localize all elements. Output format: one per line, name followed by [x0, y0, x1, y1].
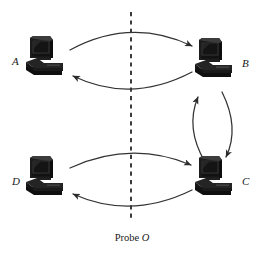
arrow-b-to-a: [73, 72, 192, 89]
node-c-computer: [195, 156, 232, 195]
node-b-computer: [195, 38, 232, 77]
node-d-computer: [26, 156, 63, 195]
arrow-c-to-d: [73, 190, 192, 206]
figure-container: A B C D Probe O: [0, 0, 264, 255]
node-label-c: C: [242, 176, 249, 187]
node-label-b: B: [242, 58, 249, 69]
node-label-a: A: [12, 56, 19, 67]
arrow-b-to-c: [222, 92, 232, 157]
figure-caption: Probe O: [0, 232, 264, 243]
network-topology-diagram: [0, 0, 264, 255]
caption-symbol: O: [142, 232, 150, 243]
caption-prefix: Probe: [115, 232, 140, 243]
arrow-c-to-b: [193, 97, 205, 162]
node-label-d: D: [12, 176, 20, 187]
node-a-computer: [26, 36, 63, 75]
